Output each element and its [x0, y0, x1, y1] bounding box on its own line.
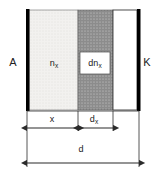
cathode-label: K: [143, 56, 151, 68]
dimension-dx-label: dx: [90, 114, 99, 125]
dimension-d-label: d: [78, 144, 83, 154]
white-region: [113, 10, 137, 110]
dimension-d: d: [27, 144, 139, 163]
dimension-x: x: [27, 114, 78, 128]
slab-electrode-diagram: nx dnx A K x dx: [0, 0, 157, 176]
anode-label: A: [9, 56, 17, 68]
extension-lines: [27, 111, 139, 167]
dimension-dx: dx: [79, 114, 113, 128]
anode-bar: [26, 9, 30, 111]
cathode-bar: [137, 9, 141, 111]
diagram-canvas: nx dnx A K x dx: [0, 0, 157, 176]
dimension-x-label: x: [50, 114, 55, 124]
